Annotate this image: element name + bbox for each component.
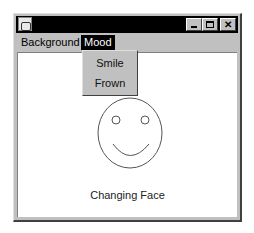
maximize-icon (206, 21, 214, 28)
mood-dropdown-menu: Smile Frown (82, 50, 138, 96)
menu-bar: Background Mood (16, 34, 238, 51)
menu-background[interactable]: Background (18, 35, 83, 50)
close-button[interactable]: ✕ (220, 18, 236, 31)
maximize-button[interactable] (202, 18, 218, 31)
java-cup-icon[interactable] (18, 17, 32, 31)
caption-label: Changing Face (18, 189, 237, 201)
title-bar[interactable]: ✕ (16, 16, 238, 33)
menu-item-smile[interactable]: Smile (83, 54, 137, 72)
menu-mood[interactable]: Mood (81, 35, 115, 50)
menu-item-frown[interactable]: Frown (83, 74, 137, 92)
minimize-button[interactable] (186, 18, 202, 31)
right-eye (141, 116, 149, 124)
smiley-face (97, 97, 163, 169)
close-icon: ✕ (224, 19, 232, 30)
window-controls: ✕ (186, 18, 236, 31)
app-window: ✕ Background Mood Changing Face (13, 13, 242, 222)
mouth-smile (113, 144, 149, 156)
left-eye (112, 116, 120, 124)
minimize-icon (191, 26, 197, 28)
